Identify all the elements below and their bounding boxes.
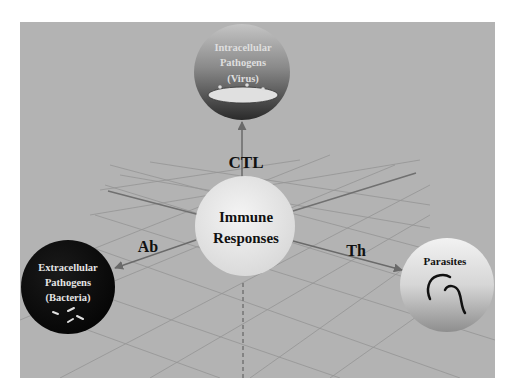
edge-label-ctl: CTL: [229, 153, 264, 172]
node-parasites[interactable]: Parasites: [400, 238, 494, 332]
node-immune-responses[interactable]: Immune Responses: [195, 176, 295, 276]
node-extracellular-pathogens[interactable]: Extracellular Pathogens (Bacteria): [21, 240, 115, 334]
cell-dish-icon: [208, 87, 278, 103]
node-left-line2: Pathogens: [45, 277, 91, 288]
node-right-line1: Parasites: [424, 255, 467, 267]
node-top-line3: (Virus): [227, 73, 259, 85]
immune-response-diagram: CTL Ab Th Intracellular Pathogens (Virus…: [0, 0, 512, 392]
center-line2: Responses: [213, 230, 279, 246]
node-left-line1: Extracellular: [38, 262, 98, 273]
edge-label-ab: Ab: [138, 238, 159, 255]
node-left-line3: (Bacteria): [46, 292, 91, 304]
edge-label-th: Th: [346, 242, 366, 259]
node-top-line2: Pathogens: [220, 57, 266, 68]
virus-particle-icon: [261, 87, 265, 91]
node-top-line1: Intracellular: [214, 42, 271, 53]
center-line1: Immune: [219, 209, 274, 225]
node-intracellular-pathogens[interactable]: Intracellular Pathogens (Virus): [194, 24, 290, 120]
virus-particle-icon: [218, 85, 222, 89]
